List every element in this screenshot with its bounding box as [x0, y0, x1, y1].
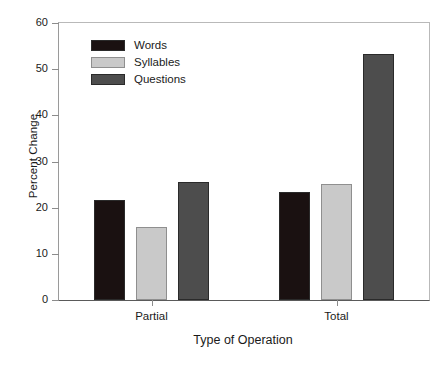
- x-axis-title: Type of Operation: [58, 333, 428, 347]
- x-tick: [152, 300, 153, 306]
- x-tick-label: Total: [324, 310, 348, 322]
- y-tick-label: 0: [42, 293, 48, 305]
- legend-label-syllables: Syllables: [134, 57, 180, 69]
- y-tick-label: 10: [36, 247, 48, 259]
- y-tick: 10: [52, 254, 59, 255]
- chart-legend: Words Syllables Questions: [91, 37, 186, 88]
- bar: [363, 54, 394, 300]
- legend-label-questions: Questions: [134, 74, 186, 86]
- bar: [136, 227, 167, 300]
- y-tick: 20: [52, 208, 59, 209]
- y-tick-label: 40: [36, 108, 48, 120]
- y-tick: 30: [52, 162, 59, 163]
- y-tick-label: 60: [36, 16, 48, 28]
- legend-swatch-words: [91, 40, 125, 51]
- y-tick-label: 20: [36, 201, 48, 213]
- legend-item-questions: Questions: [91, 71, 186, 88]
- y-tick-label: 50: [36, 62, 48, 74]
- legend-swatch-questions: [91, 74, 125, 85]
- y-tick: 40: [52, 115, 59, 116]
- y-tick-label: 30: [36, 155, 48, 167]
- plot-area: 0102030405060 PartialTotal Words Syllabl…: [58, 22, 430, 301]
- bar: [178, 182, 209, 300]
- legend-swatch-syllables: [91, 57, 125, 68]
- y-tick: 0: [52, 300, 59, 301]
- x-tick: [337, 300, 338, 306]
- bar-chart-figure: Percent Change 0102030405060 PartialTota…: [0, 0, 436, 365]
- y-tick: 50: [52, 69, 59, 70]
- legend-label-words: Words: [134, 40, 167, 52]
- legend-item-syllables: Syllables: [91, 54, 186, 71]
- y-tick: 60: [52, 23, 59, 24]
- bar: [321, 184, 352, 300]
- bar: [279, 192, 310, 300]
- legend-item-words: Words: [91, 37, 186, 54]
- bar: [94, 200, 125, 300]
- x-tick-label: Partial: [135, 310, 168, 322]
